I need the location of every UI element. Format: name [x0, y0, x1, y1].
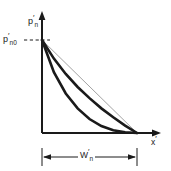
width-dimension-label-subscript: n [90, 155, 94, 162]
width-dimension-label-base: W [80, 150, 88, 160]
dimension-right-arrowhead-icon [128, 154, 136, 160]
y-intercept-label-subscript: n0 [10, 39, 17, 46]
dimension-left-arrowhead-icon [43, 154, 51, 160]
partial-pressure-decay-chart [0, 0, 171, 171]
y-axis-label: p′n [28, 14, 38, 28]
x-axis-label-prime: ′ [155, 134, 157, 143]
y-intercept-label: p′n0 [3, 32, 17, 46]
figure-container: p′n p′n0 x′ W′n [0, 0, 171, 171]
width-dimension-label: W′n [78, 148, 95, 162]
x-axis-label: x′ [151, 135, 157, 146]
axes-group [39, 11, 161, 136]
curves-group [42, 40, 137, 133]
y-axis-arrowhead-icon [39, 11, 46, 20]
y-axis-label-subscript: n [35, 21, 39, 28]
